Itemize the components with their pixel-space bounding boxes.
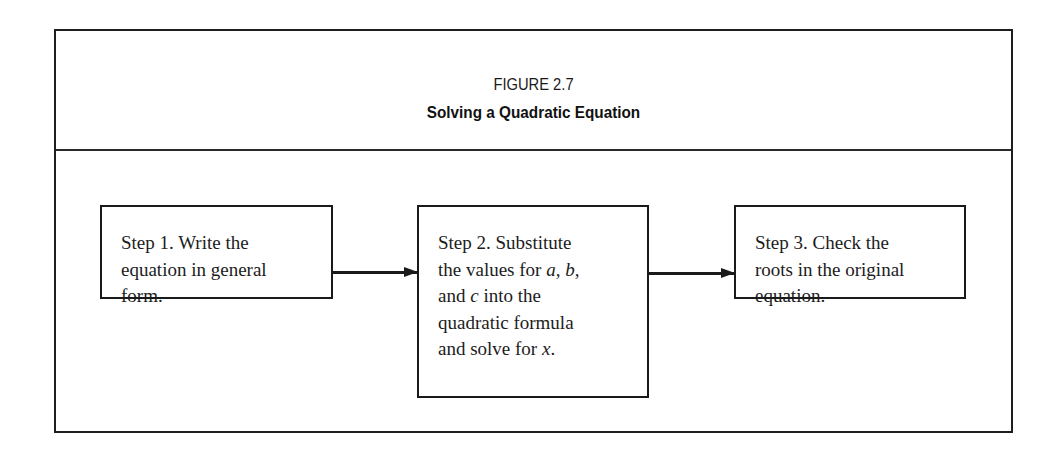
arrow-step1-to-step2 [333, 271, 417, 274]
math-variable: x [542, 338, 550, 359]
math-variable: a [546, 259, 556, 280]
step-3-line-3: equation. [755, 283, 946, 310]
figure-title: Solving a Quadratic Equation [104, 103, 964, 123]
step-1-line-3: form. [121, 283, 313, 310]
math-variable: b [565, 259, 575, 280]
step-2-box: Step 2. Substitute the values for a, b, … [417, 205, 649, 398]
step-2-line-2: the values for a, b, [438, 257, 629, 284]
figure-label: FIGURE 2.7 [94, 76, 973, 94]
step-1-box: Step 1. Write the equation in general fo… [100, 205, 333, 299]
step-2-line-5: and solve for x. [438, 336, 629, 363]
math-variable: c [470, 285, 478, 306]
step-3-box: Step 3. Check the roots in the original … [734, 205, 966, 299]
step-2-line-4: quadratic formula [438, 310, 629, 337]
step-2-line-3: and c into the [438, 283, 629, 310]
step-2-line-1: Step 2. Substitute [438, 230, 629, 257]
step-3-line-2: roots in the original [755, 257, 946, 284]
step-1-line-2: equation in general [121, 257, 313, 284]
figure-header: FIGURE 2.7 Solving a Quadratic Equation [56, 31, 1011, 151]
step-1-line-1: Step 1. Write the [121, 230, 313, 257]
arrow-step2-to-step3 [649, 272, 734, 275]
step-3-line-1: Step 3. Check the [755, 230, 946, 257]
